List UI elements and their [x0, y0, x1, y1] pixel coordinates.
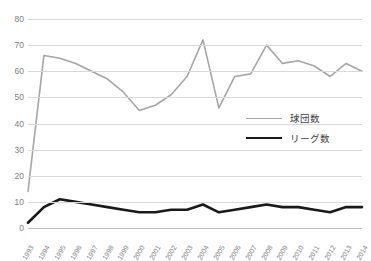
y-axis-tick-label: 30 [2, 146, 24, 154]
legend-label: リーグ数 [290, 131, 330, 145]
gridline [28, 45, 362, 46]
y-axis-tick-label: 70 [2, 41, 24, 49]
y-axis-tick-label: 20 [2, 172, 24, 180]
x-axis-tick-label: 2014 [355, 244, 369, 261]
x-axis-tick-label: 1993 [21, 244, 35, 261]
legend-swatch-icon [246, 118, 282, 119]
gridline [28, 150, 362, 151]
x-axis-tick-label: 2004 [196, 244, 210, 261]
y-axis-tick-label: 80 [2, 15, 24, 23]
chart-legend: 球団数 リーグ数 [246, 108, 364, 148]
x-axis-tick-label: 2008 [260, 244, 274, 261]
y-axis-tick-label: 40 [2, 120, 24, 128]
x-axis-tick-label: 1995 [53, 244, 67, 261]
line-chart: 01020304050607080 1993199419951996199719… [0, 0, 371, 261]
x-axis-tick-label: 2012 [323, 244, 337, 261]
x-axis-tick-label: 2002 [164, 244, 178, 261]
x-axis-tick-label: 1996 [69, 244, 83, 261]
x-axis-tick-label: 2005 [212, 244, 226, 261]
x-axis-tick-label: 2000 [132, 244, 146, 261]
y-axis-tick-label: 10 [2, 198, 24, 206]
x-axis-tick-label: 1994 [37, 244, 51, 261]
y-axis-tick-label: 0 [2, 224, 24, 232]
gridline [28, 97, 362, 98]
legend-label: 球団数 [290, 111, 320, 125]
x-axis-tick-label: 2011 [307, 244, 321, 261]
x-axis-tick-label: 2007 [244, 244, 258, 261]
gridline [28, 19, 362, 20]
x-axis-tick-label: 2010 [291, 244, 305, 261]
gridline [28, 176, 362, 177]
x-axis-tick-label: 2001 [148, 244, 162, 261]
y-axis: 01020304050607080 [0, 19, 24, 228]
x-axis-tick-label: 2006 [228, 244, 242, 261]
y-axis-tick-label: 60 [2, 67, 24, 75]
y-axis-tick-label: 50 [2, 93, 24, 101]
x-axis-tick-label: 2009 [275, 244, 289, 261]
x-axis-tick-label: 1999 [116, 244, 130, 261]
x-axis-tick-label: 1998 [100, 244, 114, 261]
legend-swatch-icon [246, 137, 282, 139]
x-axis-tick-label: 2013 [339, 244, 353, 261]
gridline [28, 202, 362, 203]
x-axis-tick-label: 1997 [85, 244, 99, 261]
x-axis: 1993199419951996199719981999200020012002… [28, 229, 362, 261]
gridline [28, 71, 362, 72]
x-axis-tick-label: 2003 [180, 244, 194, 261]
legend-item-0: 球団数 [246, 108, 364, 128]
legend-item-1: リーグ数 [246, 128, 364, 148]
